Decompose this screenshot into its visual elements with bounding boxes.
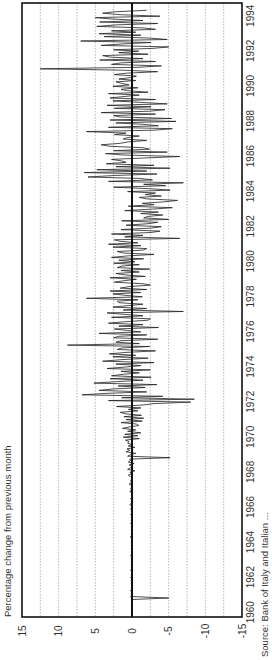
- value-axis-title: Percentage change from previous month: [2, 445, 13, 617]
- year-tick-label: 1970: [245, 425, 256, 448]
- chart: 151050-5-10-15 1960196219641966196819701…: [0, 0, 272, 660]
- value-tick-label: -10: [200, 623, 211, 638]
- year-tick-label: 1966: [245, 495, 256, 518]
- year-tick-label: 1994: [245, 4, 256, 27]
- year-tick-label: 1976: [245, 320, 256, 343]
- data-series: [40, 3, 194, 617]
- value-tick-label: 0: [127, 628, 138, 634]
- year-tick-label: 1968: [245, 460, 256, 483]
- source-note: Source: Bank of Italy and Italian ...: [259, 512, 270, 657]
- value-tick-label: 10: [53, 625, 64, 637]
- series-line: [40, 10, 194, 617]
- year-tick-label: 1964: [245, 530, 256, 553]
- year-tick-label: 1978: [245, 285, 256, 308]
- value-tick-label: -5: [163, 626, 174, 635]
- year-tick-label: 1992: [245, 39, 256, 62]
- year-tick-label: 1986: [245, 145, 256, 168]
- value-tick-label: 5: [90, 628, 101, 634]
- rotated-line-chart: 151050-5-10-15 1960196219641966196819701…: [0, 0, 272, 660]
- value-tick-label: 15: [17, 625, 28, 637]
- year-tick-label: 1960: [245, 601, 256, 624]
- year-tick-label: 1988: [245, 109, 256, 132]
- year-tick-label: 1974: [245, 355, 256, 378]
- year-tick-label: 1982: [245, 215, 256, 238]
- year-tick-label: 1984: [245, 180, 256, 203]
- value-axis-labels: 151050-5-10-15: [17, 623, 248, 638]
- year-tick-label: 1972: [245, 390, 256, 413]
- year-tick-label: 1980: [245, 250, 256, 273]
- year-tick-label: 1962: [245, 566, 256, 589]
- value-tick-label: -15: [237, 623, 248, 638]
- year-axis-labels: 1960196219641966196819701972197419761978…: [245, 4, 256, 623]
- year-tick-label: 1990: [245, 74, 256, 97]
